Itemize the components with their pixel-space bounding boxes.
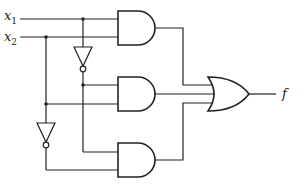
wires-to-or xyxy=(155,28,215,160)
not-gate-1 xyxy=(74,47,118,152)
junction-dot xyxy=(81,17,85,21)
junction-dot xyxy=(44,102,48,106)
wire-x1 xyxy=(20,19,118,47)
wire-x2 xyxy=(20,37,118,123)
and-gate-2 xyxy=(118,77,155,111)
junction-dot xyxy=(81,83,85,87)
and-gate-1 xyxy=(118,11,155,45)
not-gate-2 xyxy=(37,123,118,170)
logic-circuit-diagram: x1 x2 f xyxy=(0,0,307,189)
junction-dot xyxy=(44,35,48,39)
and-gate-3 xyxy=(118,143,155,177)
or-gate xyxy=(208,77,249,111)
